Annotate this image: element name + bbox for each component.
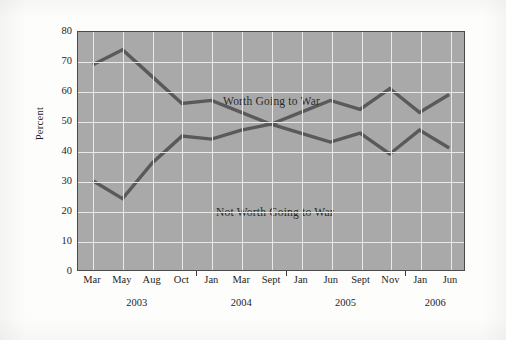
x-tick-label: Jan bbox=[294, 275, 308, 286]
x-tick-label: Aug bbox=[143, 275, 161, 286]
y-tick-label: 60 bbox=[46, 86, 72, 97]
gridline-vertical bbox=[362, 32, 363, 270]
gridline-vertical bbox=[302, 32, 303, 270]
x-tick-label: Jun bbox=[323, 275, 338, 286]
plot-area: Worth Going to War Not Worth Going to Wa… bbox=[77, 31, 465, 271]
x-year-label: 2006 bbox=[425, 298, 446, 309]
x-tick-label: Mar bbox=[232, 275, 250, 286]
y-axis-tick-labels: 80706050403020100 bbox=[44, 31, 72, 271]
x-tick-label: Sept bbox=[262, 275, 281, 286]
gridline-horizontal bbox=[78, 242, 464, 243]
gridline-vertical bbox=[242, 32, 243, 270]
x-tick-label: Jun bbox=[443, 275, 458, 286]
x-tick-label: Jan bbox=[413, 275, 427, 286]
gridline-vertical bbox=[332, 32, 333, 270]
x-tick-label: Mar bbox=[83, 275, 101, 286]
x-tick-label: Nov bbox=[381, 275, 399, 286]
x-year-label: 2004 bbox=[231, 298, 252, 309]
y-tick-label: 50 bbox=[46, 116, 72, 127]
gridline-vertical bbox=[391, 32, 392, 270]
x-tick-label: Sept bbox=[351, 275, 370, 286]
y-axis-title: Percent bbox=[34, 79, 45, 169]
gridline-horizontal bbox=[78, 152, 464, 153]
x-tick-label: May bbox=[112, 275, 131, 286]
y-tick-label: 40 bbox=[46, 146, 72, 157]
y-tick-label: 30 bbox=[46, 176, 72, 187]
gridline-horizontal bbox=[78, 182, 464, 183]
gridline-vertical bbox=[421, 32, 422, 270]
year-divider-tick bbox=[405, 271, 406, 276]
x-year-label: 2005 bbox=[335, 298, 356, 309]
year-divider-tick bbox=[286, 271, 287, 276]
y-tick-label: 20 bbox=[46, 206, 72, 217]
figure-root: Percent 80706050403020100 Worth Going to… bbox=[0, 0, 506, 340]
gridline-vertical bbox=[272, 32, 273, 270]
x-tick-label: Jan bbox=[204, 275, 218, 286]
y-tick-label: 70 bbox=[46, 56, 72, 67]
y-tick-label: 80 bbox=[46, 26, 72, 37]
gridline-vertical bbox=[451, 32, 452, 270]
x-year-label: 2003 bbox=[126, 298, 147, 309]
series-svg bbox=[78, 32, 464, 270]
gridline-vertical bbox=[123, 32, 124, 270]
x-tick-label: Oct bbox=[174, 275, 189, 286]
gridline-horizontal bbox=[78, 92, 464, 93]
year-divider-tick bbox=[196, 271, 197, 276]
gridline-horizontal bbox=[78, 212, 464, 213]
gridline-vertical bbox=[93, 32, 94, 270]
y-tick-label: 0 bbox=[46, 266, 72, 277]
x-axis-tick-labels: MarMayAugOctJanMarSeptJanJunSeptNovJanJu… bbox=[77, 275, 465, 291]
gridline-vertical bbox=[153, 32, 154, 270]
gridline-vertical bbox=[212, 32, 213, 270]
y-tick-label: 10 bbox=[46, 236, 72, 247]
gridline-horizontal bbox=[78, 122, 464, 123]
gridline-vertical bbox=[182, 32, 183, 270]
x-axis-year-labels: 2003200420052006 bbox=[77, 298, 465, 314]
gridline-horizontal bbox=[78, 62, 464, 63]
